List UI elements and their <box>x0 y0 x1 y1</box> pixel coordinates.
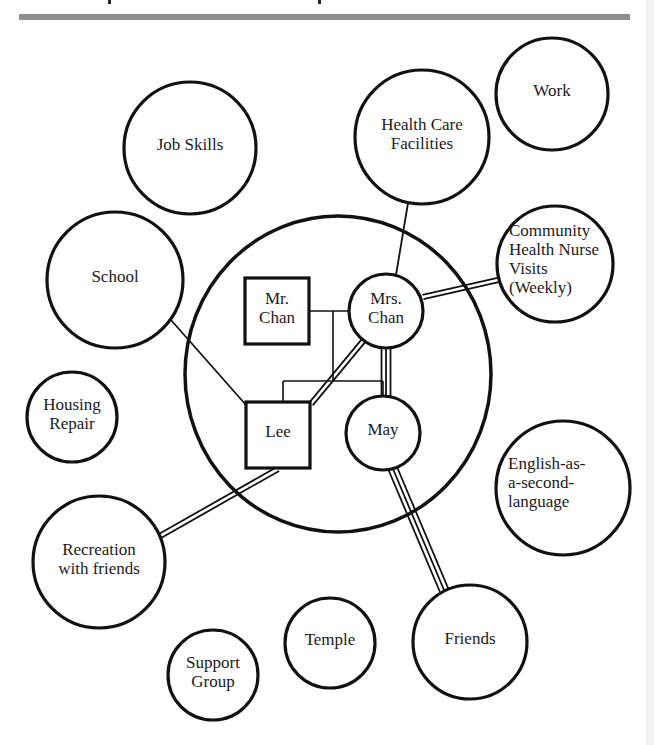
system-housing-repair: HousingRepair <box>27 372 117 462</box>
system-esl: English-as-a-second-language <box>496 421 630 555</box>
system-label: School <box>91 267 139 286</box>
connection-lee-recreation <box>159 467 279 538</box>
system-label: Recreationwith friends <box>58 540 140 578</box>
system-label: Work <box>533 81 571 100</box>
system-recreation: Recreationwith friends <box>33 496 165 628</box>
system-label: HousingRepair <box>43 395 101 433</box>
system-job-skills: Job Skills <box>124 82 256 214</box>
system-label: Friends <box>445 629 496 648</box>
member-mrs-chan: Mrs.Chan <box>349 274 423 348</box>
system-label: Health CareFacilities <box>381 115 463 153</box>
system-chn-visits: CommunityHealth NurseVisits(Weekly) <box>497 206 613 322</box>
connection-may-friends <box>389 467 448 591</box>
member-label: Lee <box>265 422 290 441</box>
system-school: School <box>47 212 183 348</box>
system-label: Job Skills <box>157 135 224 154</box>
system-health-care: Health CareFacilities <box>355 70 489 204</box>
system-temple: Temple <box>285 598 375 688</box>
system-label: Temple <box>305 630 356 649</box>
member-lee: Lee <box>246 402 310 468</box>
connection-school-lee <box>171 320 246 405</box>
member-mr-chan: Mr.Chan <box>245 278 309 344</box>
system-label: SupportGroup <box>186 653 240 691</box>
ecomap-diagram: WorkHealth CareFacilitiesJob SkillsSchoo… <box>0 0 654 745</box>
member-may: May <box>346 396 420 470</box>
system-support-group: SupportGroup <box>168 630 258 720</box>
connection-mrs_chan-lee <box>309 339 365 406</box>
system-friends: Friends <box>413 585 527 699</box>
member-label: Mrs.Chan <box>368 289 404 327</box>
member-label: May <box>367 420 399 439</box>
system-work: Work <box>496 38 608 150</box>
connection-health_care-mrs_chan <box>396 203 408 275</box>
